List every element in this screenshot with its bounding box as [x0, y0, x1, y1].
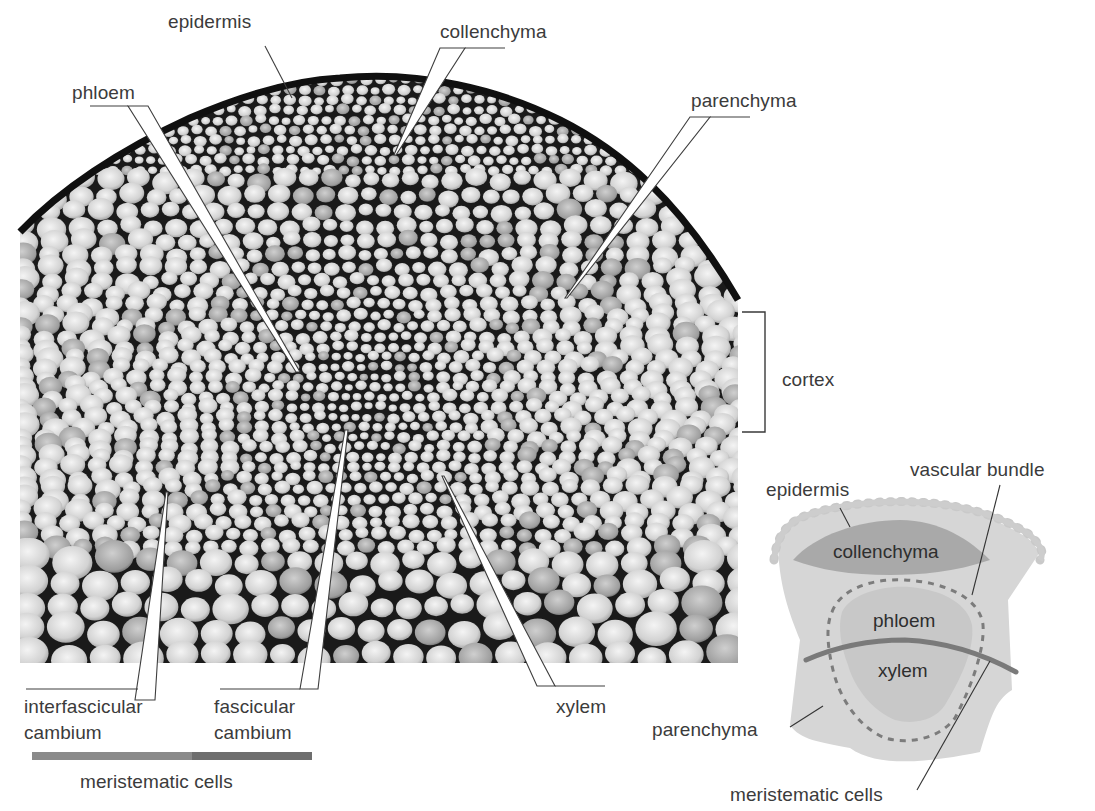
label-epidermis: epidermis	[168, 11, 251, 33]
label-fascicular-line1: fascicular	[214, 694, 295, 720]
micrograph	[0, 0, 1095, 811]
cortex-bracket	[742, 312, 765, 432]
schematic-label-epidermis: epidermis	[766, 479, 849, 501]
label-fascicular-line2: cambium	[214, 720, 295, 746]
schematic-label-xylem: xylem	[878, 660, 928, 682]
label-collenchyma: collenchyma	[440, 21, 547, 43]
schematic-label-phloem: phloem	[873, 610, 935, 632]
schematic	[774, 485, 1042, 790]
label-interfascicular-line1: interfascicular	[24, 694, 143, 720]
label-meristematic-cells: meristematic cells	[80, 771, 233, 793]
schematic-label-collenchyma: collenchyma	[833, 541, 939, 563]
schematic-label-parenchyma: parenchyma	[652, 719, 758, 741]
label-xylem: xylem	[556, 696, 606, 718]
label-interfascicular-cambium: interfascicular cambium	[24, 694, 143, 746]
meristem-bar-interfascicular	[32, 752, 192, 760]
label-fascicular-cambium: fascicular cambium	[214, 694, 295, 746]
schematic-label-meristematic-cells: meristematic cells	[730, 784, 883, 806]
meristem-bar-fascicular	[192, 752, 312, 760]
label-interfascicular-line2: cambium	[24, 720, 143, 746]
label-parenchyma: parenchyma	[691, 90, 797, 112]
stem-cross-section-figure: epidermis collenchyma phloem parenchyma …	[0, 0, 1095, 811]
label-phloem: phloem	[72, 82, 135, 104]
schematic-label-vascular-bundle: vascular bundle	[910, 459, 1045, 481]
label-cortex: cortex	[782, 369, 834, 391]
